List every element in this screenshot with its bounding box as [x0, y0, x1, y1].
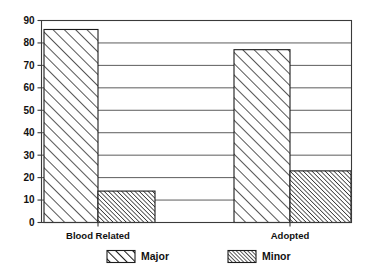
bar-minor-blood-related — [98, 191, 155, 222]
y-tick-label: 50 — [23, 105, 35, 116]
y-tick-label: 30 — [23, 150, 35, 161]
y-tick-label: 0 — [29, 217, 35, 228]
y-tick-label: 90 — [23, 15, 35, 26]
y-tick-label: 10 — [23, 194, 35, 205]
y-tick-label: 70 — [23, 60, 35, 71]
y-tick-label: 60 — [23, 82, 35, 93]
chart-canvas: 0102030405060708090 Blood RelatedAdopted… — [0, 0, 368, 275]
minor-swatch — [228, 251, 256, 263]
major-swatch — [107, 251, 135, 263]
bar-major-blood-related — [44, 29, 98, 222]
legend-label-minor: Minor — [262, 250, 291, 262]
y-tick-label: 80 — [23, 37, 35, 48]
legend-label-major: Major — [141, 250, 169, 262]
bar-chart: 0102030405060708090 Blood RelatedAdopted… — [0, 0, 368, 275]
x-category-label: Blood Related — [66, 230, 130, 241]
bar-major-adopted — [234, 50, 290, 223]
bar-minor-adopted — [290, 171, 351, 223]
x-category-label: Adopted — [271, 230, 310, 241]
y-tick-label: 20 — [23, 172, 35, 183]
y-tick-label: 40 — [23, 127, 35, 138]
